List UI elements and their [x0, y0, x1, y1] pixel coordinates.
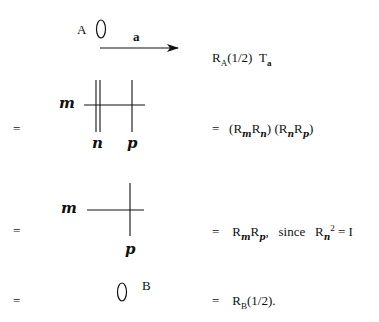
symbol-r: R [232, 224, 241, 239]
identity: I [349, 224, 353, 239]
point-label-b: B [142, 278, 151, 294]
diagram-strokes [0, 0, 379, 322]
equals: = [212, 121, 219, 136]
equals-row3: = [13, 223, 20, 239]
subscript: m [242, 129, 252, 139]
equation-row2: = (RmRn) (RnRp) [212, 121, 313, 139]
argument: (1/2) [227, 50, 252, 65]
symbol-r: R [315, 224, 324, 239]
symbol-t: T [259, 50, 267, 65]
equation-row3: = RmRp, since Rn2 = I [212, 223, 353, 242]
symbol-r: R [233, 121, 242, 136]
symbol-r: R [212, 50, 221, 65]
equation-row1: RA(1/2) Ta [212, 50, 271, 68]
subscript: m [241, 232, 251, 242]
subscript: n [324, 232, 331, 242]
equals: = [338, 224, 345, 239]
paren: ) [309, 121, 313, 136]
line-label-m: m [61, 199, 77, 217]
oval-b-icon [118, 283, 127, 301]
subscript: a [267, 58, 272, 68]
symbol-r: R [232, 293, 241, 308]
comma: , [266, 224, 269, 239]
paren: ) [267, 121, 271, 136]
symbol-r: R [294, 121, 303, 136]
line-label-m: m [59, 94, 75, 112]
vector-label-a: a [133, 29, 140, 45]
equals: = [212, 293, 219, 308]
symbol-r: R [252, 121, 261, 136]
line-label-p: p [127, 134, 138, 152]
equation-row4: = RB(1/2). [212, 293, 276, 311]
symbol-r: R [251, 224, 260, 239]
line-label-n: n [92, 134, 103, 152]
superscript: 2 [330, 223, 335, 233]
equals-row2: = [13, 121, 20, 137]
since-text: since [279, 224, 306, 239]
equals-row4: = [13, 293, 20, 309]
equals: = [212, 224, 219, 239]
argument: (1/2). [247, 293, 276, 308]
line-label-p: p [125, 240, 136, 258]
oval-a-icon [97, 20, 106, 38]
point-label-a: A [77, 22, 86, 38]
